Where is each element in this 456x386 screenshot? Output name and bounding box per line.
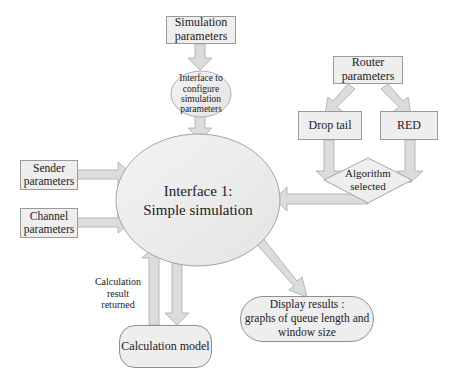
interface-config-line2: configure [183,84,219,94]
drop-tail-label: Drop tail [309,119,352,133]
interface-config-line4: parameters [180,104,222,114]
red-box: RED [380,111,438,140]
calculation-model-box: Calculation model [119,325,212,368]
interface1-line1: Interface 1: [164,182,233,201]
router-parameters-line1: Router [352,56,385,70]
algorithm-selected-line1: Algorithm [345,167,391,180]
channel-parameters-box: Channel parameters [20,208,78,238]
calculation-model-label: Calculation model [121,340,209,354]
interface-config-line1: Interface to [179,73,223,83]
calculation-result-returned-label: Calculation result returned [90,276,146,311]
arrow-router-to-red [381,84,411,114]
algorithm-selected-line2: selected [350,180,385,193]
interface-config-label: Interface to configure simulation parame… [170,72,232,116]
interface1-line2: Simple simulation [143,201,253,220]
algorithm-selected-label: Algorithm selected [334,166,402,194]
router-parameters-line2: parameters [342,70,395,84]
sender-parameters-line2: parameters [24,175,74,188]
simulation-parameters-box: Simulation parameters [166,16,236,44]
calc-result-line3: returned [90,299,146,311]
arrow-router-to-droptail [325,84,355,114]
display-results-box: Display results : graphs of queue length… [240,296,374,342]
arrow-sim-to-config [188,44,212,70]
router-parameters-box: Router parameters [333,56,403,84]
display-results-line2: graphs of queue length and [245,312,370,326]
simulation-parameters-line2: parameters [175,30,228,44]
channel-parameters-line2: parameters [24,223,74,236]
interface1-label: Interface 1: Simple simulation [128,182,268,220]
arrow-interface1-to-calc [165,258,189,325]
calc-result-line2: result [90,288,146,300]
interface-config-line3: simulation [181,94,221,104]
display-results-line1: Display results : [270,298,345,312]
simulation-parameters-line1: Simulation [175,16,228,30]
display-results-line3: window size [278,326,336,340]
calc-result-line1: Calculation [90,276,146,288]
sender-parameters-box: Sender parameters [20,160,78,190]
red-label: RED [397,119,421,133]
sender-parameters-line1: Sender [33,162,65,175]
drop-tail-box: Drop tail [298,111,362,140]
channel-parameters-line1: Channel [30,210,68,223]
